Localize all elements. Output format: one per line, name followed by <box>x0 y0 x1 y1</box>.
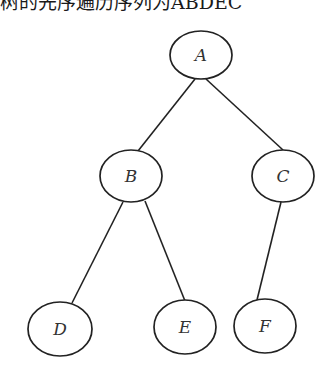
node-b-label: B <box>124 166 138 186</box>
node-a-label: A <box>193 45 207 65</box>
node-c-label: C <box>276 166 289 186</box>
edge-a-c <box>206 79 283 150</box>
edge-b-d <box>72 202 123 303</box>
node-d: D <box>28 302 92 356</box>
node-c: C <box>252 150 314 202</box>
node-a: A <box>170 31 232 79</box>
edge-c-f <box>257 202 281 300</box>
node-f: F <box>234 299 296 353</box>
node-b: B <box>100 150 162 202</box>
edge-a-b <box>138 79 195 151</box>
node-e-label: E <box>178 317 192 337</box>
node-d-label: D <box>52 319 67 339</box>
edge-b-e <box>145 201 185 301</box>
binary-tree-diagram: A B C D E F <box>0 0 331 376</box>
node-e: E <box>154 300 216 354</box>
node-f-label: F <box>258 316 272 336</box>
